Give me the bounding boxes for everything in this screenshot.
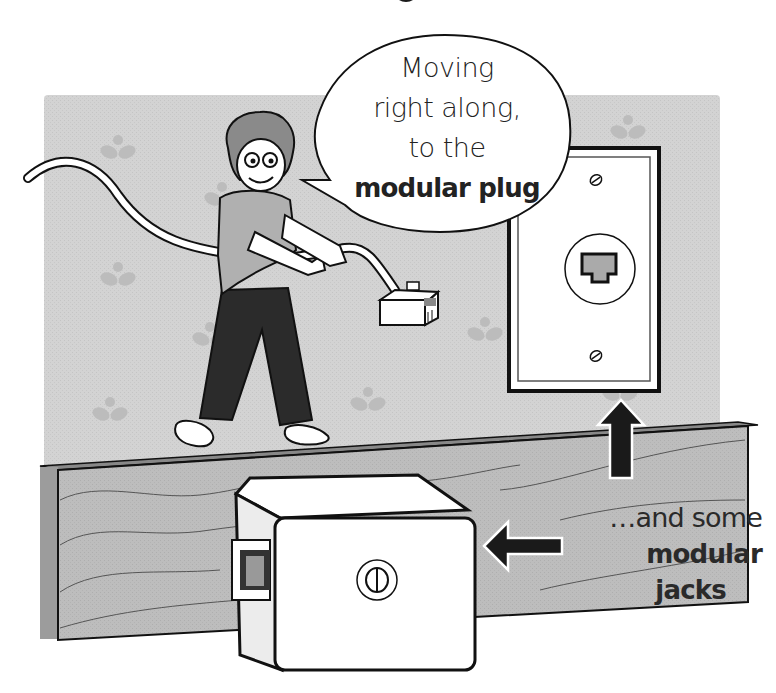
bubble-line-2: right along,	[352, 88, 542, 128]
bubble-line-1: Moving	[352, 48, 542, 88]
caption-bold-line-2: jacks	[592, 572, 762, 608]
bubble-line-3: to the	[352, 128, 542, 168]
caption-line-1: …and some	[592, 500, 762, 536]
jacks-caption: …and some modular jacks	[592, 500, 762, 608]
speech-bubble-text: Moving right along, to the modular plug	[352, 48, 542, 208]
bubble-bold-line: modular plug	[352, 168, 542, 208]
caption-bold-line-1: modular	[592, 536, 762, 572]
surface-mount-jack	[232, 475, 475, 670]
